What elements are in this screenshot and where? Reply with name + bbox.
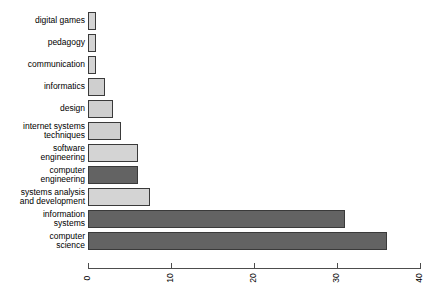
bar — [88, 144, 138, 162]
x-axis-tick-label: 20 — [248, 266, 258, 290]
bar-category-label-line1: digital games — [35, 16, 85, 26]
bar-category-label-line1: informatics — [44, 82, 85, 92]
bar-category-label: systems analysisand development — [0, 186, 85, 208]
bar — [88, 210, 345, 228]
x-axis-tick-label: 10 — [165, 266, 175, 290]
bar — [88, 166, 138, 184]
bar — [88, 100, 113, 118]
bar-category-label: informatics — [0, 76, 85, 98]
bar-row: informatics — [0, 76, 436, 98]
bar-category-label: computerengineering — [0, 164, 85, 186]
bar — [88, 12, 96, 30]
bar — [88, 34, 96, 52]
bar-category-label-line1: design — [60, 104, 85, 114]
bar-category-label: informationsystems — [0, 208, 85, 230]
bar-category-label: digital games — [0, 10, 85, 32]
bar-row: computerengineering — [0, 164, 436, 186]
x-axis: 010203040 — [0, 262, 436, 304]
bar — [88, 188, 150, 206]
bar-category-label: computerscience — [0, 230, 85, 252]
bar-row: pedagogy — [0, 32, 436, 54]
bar-category-label-line2: techniques — [44, 131, 85, 141]
bar-row: communication — [0, 54, 436, 76]
bar-category-label: design — [0, 98, 85, 120]
bar-category-label-line2: engineering — [41, 153, 85, 163]
bar — [88, 78, 105, 96]
bar-row: systems analysisand development — [0, 186, 436, 208]
x-axis-tick-label: 30 — [331, 266, 341, 290]
bar-category-label-line2: science — [56, 241, 85, 251]
bar-category-label: communication — [0, 54, 85, 76]
bar-category-label-line1: communication — [28, 60, 85, 70]
bar — [88, 122, 121, 140]
x-axis-tick-label: 40 — [414, 266, 424, 290]
bar-category-label: internet systemstechniques — [0, 120, 85, 142]
bar-category-label: pedagogy — [0, 32, 85, 54]
bar-row: digital games — [0, 10, 436, 32]
plot-area: digital gamespedagogycommunicationinform… — [0, 0, 436, 262]
bar-row: design — [0, 98, 436, 120]
bar-row: softwareengineering — [0, 142, 436, 164]
bar-row: computerscience — [0, 230, 436, 252]
bar-category-label-line2: systems — [54, 219, 85, 229]
bar — [88, 232, 387, 250]
bar-category-label-line1: pedagogy — [48, 38, 85, 48]
bar-row: informationsystems — [0, 208, 436, 230]
x-axis-tick-label: 0 — [82, 266, 92, 290]
bar-category-label-line2: and development — [20, 197, 85, 207]
bar-category-label: softwareengineering — [0, 142, 85, 164]
bar-row: internet systemstechniques — [0, 120, 436, 142]
bar — [88, 56, 96, 74]
bar-category-label-line2: engineering — [41, 175, 85, 185]
bar-chart: digital gamespedagogycommunicationinform… — [0, 0, 436, 304]
